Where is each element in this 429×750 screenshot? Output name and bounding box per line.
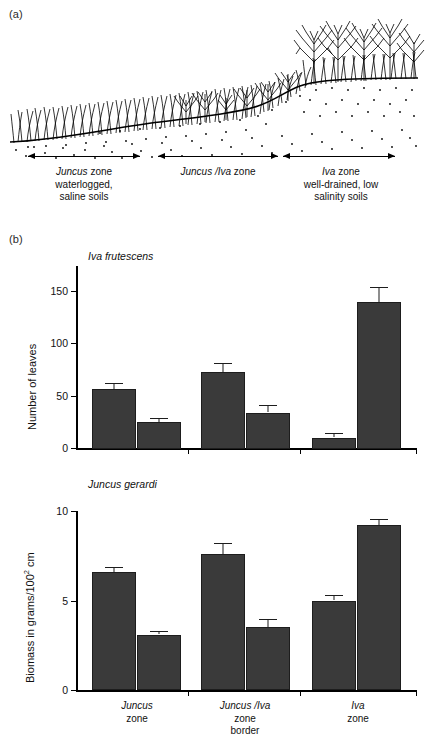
chart-bottom-bar-g1-right: [137, 635, 181, 691]
chart-bottom-bar-g2-left: [201, 554, 245, 690]
zone-caption-juncus-genus: Juncus: [56, 166, 88, 177]
chart-bottom-bar-g1-left: [92, 572, 136, 690]
chart-top-bar-g2-left: [201, 372, 245, 449]
chart-bottom-x-axis: [76, 690, 417, 692]
chart-bottom-ytick-label-5: 5: [36, 595, 68, 607]
chart-bottom-xtick-2: [300, 691, 301, 696]
chart-bottom-title: Juncus gerardi: [88, 478, 157, 490]
zone-caption-iva-line2: well-drained, low: [286, 179, 396, 192]
chart-top-bar-g1-right: [137, 422, 181, 449]
x-axis-label-juncus: Juncus zone: [82, 700, 192, 725]
x-axis-label-juncus-genus: Juncus: [82, 700, 192, 713]
chart-top-ytick-100: [71, 343, 76, 344]
chart-top-ytick-0: [71, 448, 76, 449]
chart-bottom-bar-g3-right: [357, 525, 401, 690]
chart-bottom-ytick-0: [71, 690, 76, 691]
panel-a-zonation-diagram: (a): [0, 0, 429, 230]
chart-bottom-xtick-1: [188, 691, 189, 696]
x-axis-label-iva: Iva zone: [302, 700, 414, 725]
chart-top-xtick-2: [300, 449, 301, 454]
zone-caption-iva-genus: Iva: [322, 166, 335, 177]
x-axis-label-juncus-iva-line2: zone: [189, 713, 301, 726]
zone-caption-juncus-suffix: zone: [88, 166, 112, 177]
zone-arrow-juncus: [28, 152, 140, 161]
x-axis-label-juncus-iva: Juncus /Iva zone border: [189, 700, 301, 738]
chart-bottom-y-axis: [76, 511, 78, 691]
chart-top-bar-g3-right: [357, 302, 401, 449]
chart-bottom-y-axis-title-exponent: 2: [22, 570, 31, 574]
chart-bottom-bar-g3-left: [312, 601, 356, 691]
chart-top-error-g2-right: [259, 405, 277, 412]
chart-top-ytick-label-50: 50: [36, 390, 68, 402]
chart-top-xtick-1: [188, 449, 189, 454]
chart-top-error-g3-left: [325, 433, 343, 437]
chart-bottom-xtick-3: [416, 691, 417, 696]
chart-iva-frutescens-leaves: Iva frutescens Number of leaves 0 50 100…: [0, 250, 429, 465]
zone-caption-juncus-line2: waterlogged,: [34, 179, 134, 192]
x-axis-label-juncus-iva-line3: border: [189, 725, 301, 738]
x-axis-label-iva-genus: Iva: [302, 700, 414, 713]
chart-bottom-error-g3-right: [370, 519, 388, 525]
chart-bottom-error-g3-left: [325, 595, 343, 600]
chart-bottom-error-g1-left: [105, 567, 123, 572]
chart-top-title: Iva frutescens: [88, 250, 153, 262]
zone-arrow-juncus-iva: [158, 152, 278, 161]
chart-juncus-gerardi-biomass: Juncus gerardi Biomass in grams/1002 cm …: [0, 478, 429, 750]
chart-top-bar-g2-right: [246, 413, 290, 450]
chart-bottom-y-axis-title-tail: cm: [24, 552, 36, 570]
chart-top-y-axis-title: Number of leaves: [26, 344, 38, 430]
zone-caption-juncus: Juncus zone waterlogged, saline soils: [34, 166, 134, 204]
zone-caption-iva: Iva zone well-drained, low salinity soil…: [286, 166, 396, 204]
chart-top-ytick-label-150: 150: [30, 285, 68, 297]
chart-top-ytick-50: [71, 396, 76, 397]
chart-top-error-g1-left: [105, 383, 123, 389]
figure-root: (a): [0, 0, 429, 750]
chart-top-y-axis: [76, 266, 78, 449]
x-axis-label-juncus-line2: zone: [82, 713, 192, 726]
zone-caption-juncus-line3: saline soils: [34, 191, 134, 204]
panel-b-label: (b): [9, 233, 23, 245]
x-axis-label-juncus-iva-genus: Juncus /Iva: [189, 700, 301, 713]
chart-bottom-ytick-label-10: 10: [30, 505, 68, 517]
zone-caption-iva-suffix: zone: [335, 166, 359, 177]
x-axis-label-iva-line2: zone: [302, 713, 414, 726]
chart-bottom-error-g2-left: [214, 543, 232, 554]
chart-top-ytick-150: [71, 291, 76, 292]
chart-bottom-ytick-label-0: 0: [36, 684, 68, 696]
chart-top-ytick-label-100: 100: [30, 337, 68, 349]
zone-caption-juncus-iva: Juncus /Iva zone: [158, 166, 278, 179]
chart-bottom-y-axis-title: Biomass in grams/1002 cm: [22, 552, 36, 683]
chart-top-ytick-label-0: 0: [36, 442, 68, 454]
marsh-profile-illustration: [0, 0, 429, 175]
chart-bottom-ytick-5: [71, 601, 76, 602]
chart-top-error-g2-left: [214, 363, 232, 371]
zone-caption-juncus-iva-genus: Juncus /Iva: [180, 166, 231, 177]
chart-top-error-g1-right: [150, 418, 168, 422]
chart-bottom-bar-g2-right: [246, 627, 290, 690]
chart-top-error-g3-right: [370, 287, 388, 302]
chart-top-bar-g3-left: [312, 438, 356, 450]
chart-top-xtick-3: [416, 449, 417, 454]
zone-arrow-iva: [283, 152, 395, 161]
zone-caption-iva-line3: salinity soils: [286, 191, 396, 204]
chart-bottom-y-axis-title-base: Biomass in grams/100: [24, 574, 36, 683]
chart-top-bar-g1-left: [92, 389, 136, 449]
chart-bottom-ytick-10: [71, 511, 76, 512]
chart-bottom-error-g1-right: [150, 631, 168, 635]
zone-caption-juncus-iva-suffix: zone: [231, 166, 255, 177]
chart-bottom-error-g2-right: [259, 619, 277, 627]
